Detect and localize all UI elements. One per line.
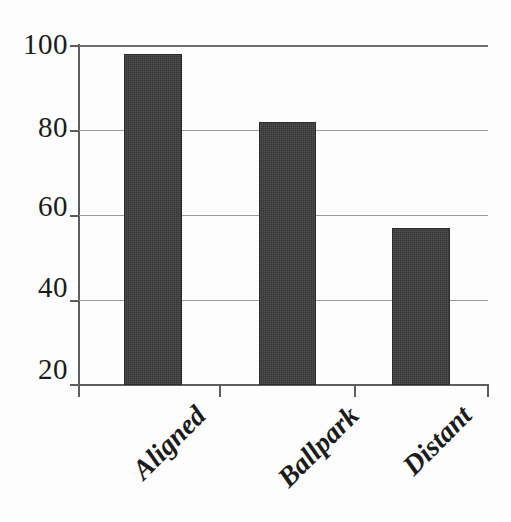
x-tick-label-ballpark: Ballpark: [273, 401, 364, 492]
bar-chart: 100 80 60 40 20 Aligned Ballpark Distant: [0, 0, 511, 522]
x-tick-label-aligned: Aligned: [127, 401, 211, 485]
x-axis-category-labels: Aligned Ballpark Distant: [0, 0, 511, 522]
x-tick-label-distant: Distant: [398, 401, 477, 480]
